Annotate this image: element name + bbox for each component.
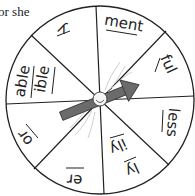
segment-ful: ful [155,51,181,76]
segment-label-ible: ible [31,64,53,94]
segment-label-y: y [55,20,70,40]
segment-er: er [65,168,84,190]
segment-label-er: er [65,170,83,189]
segment-label-ily: ily [106,135,129,159]
segment-label-able: able [10,64,33,99]
segment-able-ible: able ible [10,64,55,99]
spinner-wheel[interactable]: y ment ful less ily ly er or able ible [0,0,195,196]
segment-ly-ily: ily ly [106,134,141,180]
spinner-hub [93,92,107,106]
segment-less: less [162,107,183,138]
segment-or: or [13,124,38,149]
segment-label-or: or [13,126,37,150]
segment-label-less: less [163,107,183,138]
segment-y: y [55,20,70,40]
segment-label-ful: ful [156,51,180,76]
